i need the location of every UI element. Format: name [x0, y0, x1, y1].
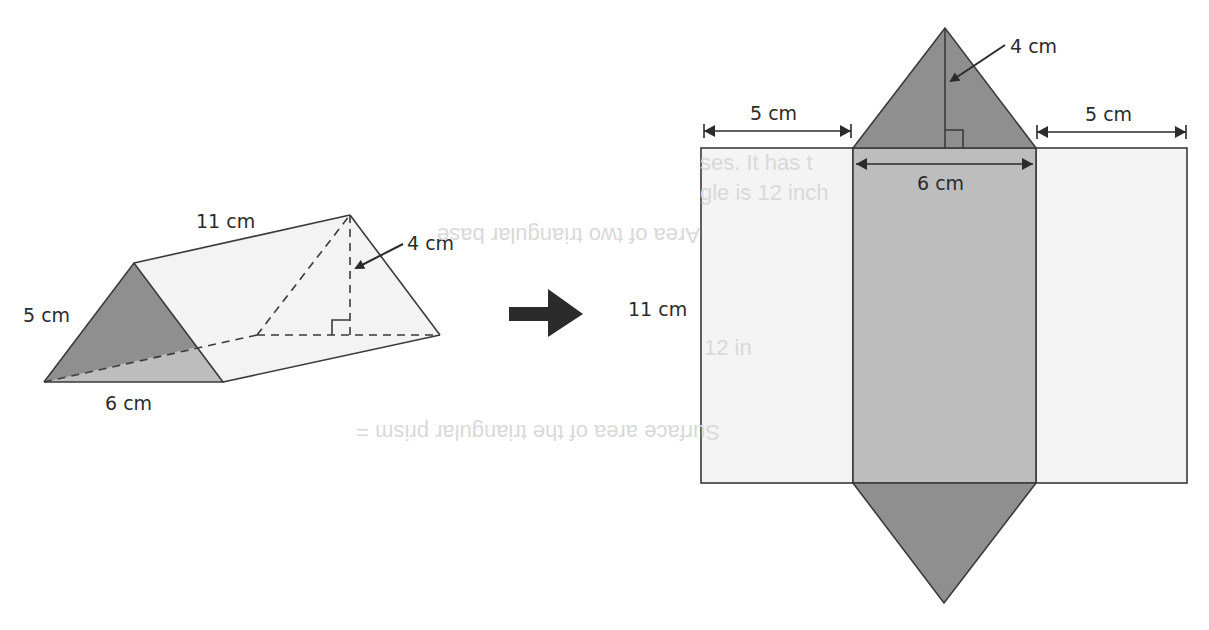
- prism-base-label: 6 cm: [105, 392, 152, 414]
- svg-text:12 in: 12 in: [704, 335, 752, 360]
- net-left-width-label: 5 cm: [750, 102, 797, 124]
- svg-text:Area of two triangular base: Area of two triangular base: [437, 223, 700, 248]
- net-length-label: 11 cm: [628, 298, 687, 320]
- svg-text:gle is 12 inch: gle is 12 inch: [700, 180, 828, 205]
- svg-text:ses. It has t: ses. It has t: [700, 150, 813, 175]
- net-right-width-label: 5 cm: [1085, 103, 1132, 125]
- net-middle-width-label: 6 cm: [917, 172, 964, 194]
- right-arrow-icon: [509, 289, 583, 337]
- net-right-rectangle: [1036, 148, 1187, 483]
- triangular-prism-3d: 11 cm 4 cm 5 cm 6 cm: [23, 210, 454, 414]
- net-bottom-triangle: [853, 483, 1036, 603]
- prism-length-label: 11 cm: [196, 210, 255, 232]
- svg-text:Surface area of the triangular: Surface area of the triangular prism =: [356, 420, 720, 445]
- prism-slant-label: 5 cm: [23, 304, 70, 326]
- net-triangle-height-label: 4 cm: [1010, 35, 1057, 57]
- diagram-canvas: 11 cm 4 cm 5 cm 6 cm ses. It has t gle i…: [0, 0, 1209, 630]
- net-middle-rectangle: [853, 148, 1036, 483]
- prism-net: ses. It has t gle is 12 inch Area of two…: [356, 28, 1187, 603]
